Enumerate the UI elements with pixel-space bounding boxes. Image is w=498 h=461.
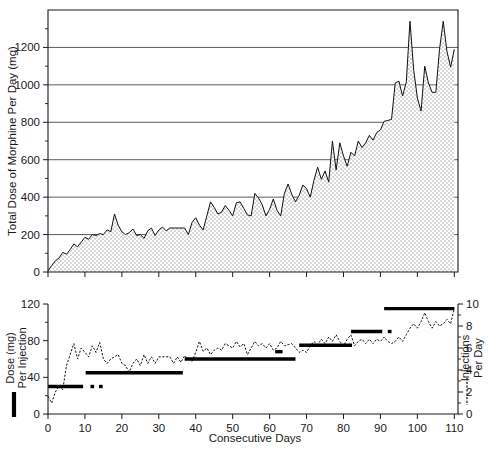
ytick-label: 1200 [14, 41, 40, 53]
top-chart-x-ticks [48, 272, 454, 277]
xtick-label: 20 [115, 422, 128, 434]
xtick-label: 30 [152, 422, 165, 434]
figure-container: 020040060080010001200 Total Dose of Morp… [0, 0, 498, 461]
top-chart-svg: 020040060080010001200 Total Dose of Morp… [0, 0, 498, 292]
bottom-chart-injections-line [48, 308, 454, 403]
ytick-label-left: 40 [27, 371, 40, 383]
ytick-label-left: 0 [34, 408, 40, 420]
ytick-label: 200 [21, 229, 40, 241]
ytick-label: 800 [21, 116, 40, 128]
bottom-chart-y-axis-title-left-line2: Per Injection [16, 327, 28, 388]
ytick-label: 1000 [14, 79, 40, 91]
bottom-chart-svg: 0102030405060708090100110 04080120 02468… [0, 292, 498, 461]
ytick-label-left: 120 [21, 298, 40, 310]
ytick-label: 600 [21, 154, 40, 166]
bottom-chart-y-axis-title-left-line1: Dose (mg) [4, 332, 16, 383]
xtick-label: 80 [337, 422, 350, 434]
top-chart-y-ticks [43, 29, 48, 272]
top-chart-panel: 020040060080010001200 Total Dose of Morp… [0, 0, 498, 292]
ytick-label: 400 [21, 191, 40, 203]
bottom-chart-panel: 0102030405060708090100110 04080120 02468… [0, 292, 498, 461]
bottom-chart-y-axis-title-right-line2: Per Day [472, 338, 484, 378]
xtick-label: 0 [45, 422, 51, 434]
ytick-label-right: 8 [466, 320, 472, 332]
top-chart-area-fill [48, 21, 454, 272]
area-fill-morphine [48, 21, 454, 272]
bottom-chart-x-axis-title: Consecutive Days [209, 432, 302, 444]
bottom-chart-y-axis-title-right-line1: Injections [459, 334, 471, 381]
xtick-label: 90 [374, 422, 387, 434]
line-injections-per-day [48, 308, 454, 403]
ytick-label: 0 [34, 266, 40, 278]
xtick-label: 40 [189, 422, 202, 434]
xtick-label: 110 [445, 422, 463, 434]
top-chart-y-axis-title: Total Dose of Morphine Per Day (mg) [6, 46, 18, 236]
bottom-chart-x-ticks [48, 414, 454, 419]
ytick-label-right: 10 [466, 298, 479, 310]
xtick-label: 70 [300, 422, 313, 434]
xtick-label: 10 [79, 422, 92, 434]
ytick-label-left: 80 [27, 335, 40, 347]
top-chart-y-tick-labels: 020040060080010001200 [14, 41, 40, 278]
bottom-chart-y-ticks-left [43, 304, 48, 414]
xtick-label: 100 [408, 422, 427, 434]
ytick-label-right: 0 [466, 408, 472, 420]
